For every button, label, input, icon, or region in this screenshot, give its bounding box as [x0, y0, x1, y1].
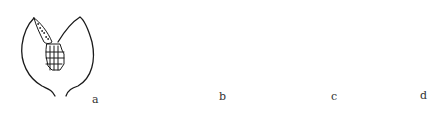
panel-a-drawing — [22, 17, 94, 96]
panel-label-a: a — [92, 94, 99, 105]
panel-label-b: b — [219, 91, 226, 102]
figure-drawing — [0, 0, 445, 127]
panel-label-c: c — [331, 91, 337, 102]
panel-label-d: d — [420, 90, 427, 101]
